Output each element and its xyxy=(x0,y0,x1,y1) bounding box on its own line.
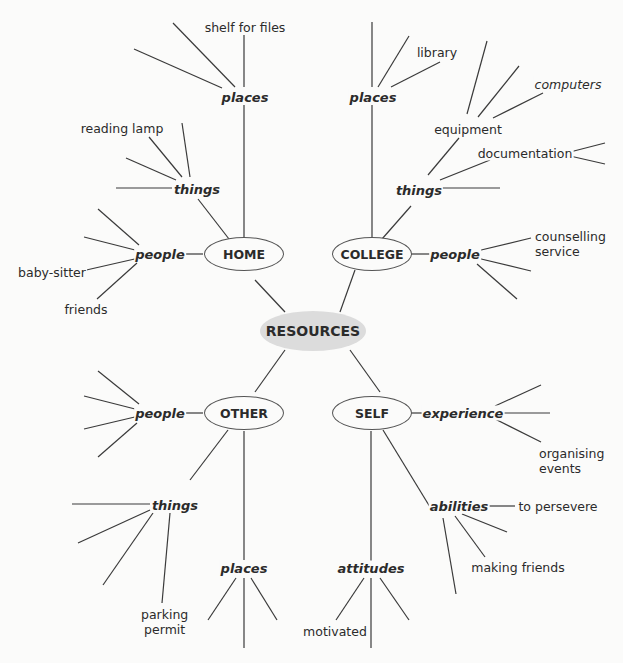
leaf-documentation: documentation xyxy=(477,146,574,161)
leaf-shelf-for-files: shelf for files xyxy=(204,20,287,35)
leaf-parking-line2: permit xyxy=(144,622,185,637)
root-node-resources: RESOURCES xyxy=(260,311,366,351)
leaf-counselling-line1: counselling xyxy=(535,229,606,244)
leaf-making-friends: making friends xyxy=(470,560,565,575)
node-self-label: SELF xyxy=(355,406,389,421)
leaf-equipment: equipment xyxy=(433,122,503,137)
leaf-parking-line1: parking xyxy=(141,607,188,622)
node-self: SELF xyxy=(332,396,412,430)
node-other: OTHER xyxy=(204,396,284,430)
node-college-label: COLLEGE xyxy=(340,247,403,262)
node-college: COLLEGE xyxy=(332,237,412,271)
leaf-to-persevere: to persevere xyxy=(517,499,598,514)
home-things-label: things xyxy=(173,182,221,197)
self-experience-label: experience xyxy=(422,406,505,421)
leaf-counselling-service: counselling service xyxy=(534,229,607,259)
leaf-organising-events: organising events xyxy=(538,446,605,476)
leaf-library: library xyxy=(416,45,458,60)
college-things-label: things xyxy=(395,183,443,198)
leaf-organising-line1: organising xyxy=(539,446,604,461)
home-people-label: people xyxy=(134,247,186,262)
node-home-label: HOME xyxy=(223,247,265,262)
leaf-counselling-line2: service xyxy=(535,244,580,259)
college-people-label: people xyxy=(429,247,481,262)
leaf-parking-permit: parking permit xyxy=(140,607,189,637)
leaf-friends: friends xyxy=(63,302,108,317)
other-people-label: people xyxy=(134,406,186,421)
leaf-motivated: motivated xyxy=(302,624,368,639)
leaf-organising-line2: events xyxy=(539,461,581,476)
leaf-baby-sitter: baby-sitter xyxy=(17,265,87,280)
self-abilities-label: abilities xyxy=(429,499,490,514)
root-label: RESOURCES xyxy=(266,323,360,339)
mind-map: RESOURCES HOME COLLEGE OTHER SELF places… xyxy=(0,0,623,663)
home-places-label: places xyxy=(221,90,270,105)
leaf-reading-lamp: reading lamp xyxy=(80,121,165,136)
college-places-label: places xyxy=(349,90,398,105)
other-things-label: things xyxy=(151,498,199,513)
leaf-computers: computers xyxy=(534,77,603,92)
other-places-label: places xyxy=(220,561,269,576)
node-home: HOME xyxy=(204,237,284,271)
node-other-label: OTHER xyxy=(220,406,268,421)
self-attitudes-label: attitudes xyxy=(337,561,406,576)
